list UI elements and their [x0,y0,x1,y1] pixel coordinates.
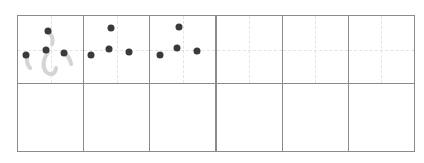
trace-character-fu [18,16,84,84]
guide-line-vertical [315,16,316,83]
guide-line-vertical [381,16,382,83]
practice-cell-r0-c3 [216,15,283,84]
guide-line-vertical [183,16,184,83]
stroke-start-dot-4 [22,52,29,59]
practice-cell-r0-c0 [17,15,84,84]
guide-line-vertical [249,16,250,83]
stroke-start-dot-3 [61,50,68,57]
practice-cell-r0-c4 [282,15,349,84]
practice-cell-r1-c1 [83,83,150,152]
practice-cell-r1-c0 [17,83,84,152]
practice-cell-r1-c4 [282,83,349,152]
stroke-start-dot-3 [126,49,133,56]
practice-cell-r1-c5 [348,83,415,152]
stroke-start-dot-1 [107,25,114,32]
stroke-start-dot-4 [87,52,94,59]
practice-cell-r0-c5 [348,15,415,84]
writing-practice-grid [17,15,414,151]
stroke-start-dot-2 [42,47,49,54]
guide-line-vertical [117,16,118,83]
stroke-start-dot-1 [44,27,51,34]
practice-cell-r0-c2 [149,15,216,84]
practice-cell-r1-c3 [216,83,283,152]
stroke-start-dot-4 [156,52,163,59]
stroke-start-dot-2 [173,44,180,51]
practice-cell-r0-c1 [83,15,150,84]
stroke-start-dot-1 [175,23,182,30]
practice-cell-r1-c2 [149,83,216,152]
stroke-start-dot-3 [193,48,200,55]
stroke-start-dot-2 [106,45,113,52]
